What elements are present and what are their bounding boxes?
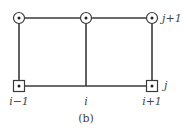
dot-icon — [85, 17, 88, 20]
col-label-middle: i — [84, 95, 88, 108]
node-bottom-right — [147, 81, 158, 92]
dot-icon — [151, 17, 154, 20]
row-label-top: j+1 — [159, 12, 182, 25]
node-top-right — [147, 13, 158, 24]
grid-lines — [19, 18, 152, 86]
node-bottom-left — [14, 81, 25, 92]
col-label-left: i−1 — [9, 95, 29, 108]
dot-icon — [18, 85, 21, 88]
figure-caption: (b) — [78, 112, 94, 125]
node-top-left — [14, 13, 25, 24]
row-label-bottom: j — [161, 79, 168, 92]
dot-icon — [151, 85, 154, 88]
col-label-right: i+1 — [142, 95, 162, 108]
dot-icon — [18, 17, 21, 20]
stencil-diagram: j+1 j i−1 i i+1 (b) — [0, 0, 183, 131]
node-top-middle — [81, 13, 92, 24]
